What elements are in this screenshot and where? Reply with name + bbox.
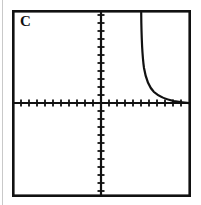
- panel-label: C: [20, 14, 31, 29]
- figure-panel: C: [0, 0, 201, 205]
- plot-area: [12, 10, 191, 197]
- graph-svg: [12, 10, 191, 197]
- page-margin-rule: [2, 0, 3, 205]
